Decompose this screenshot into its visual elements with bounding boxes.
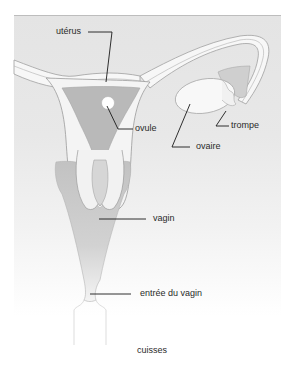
- label-uterus: utérus: [56, 27, 81, 36]
- thigh-outline-right: [96, 300, 106, 345]
- leader-line-trompe: [216, 111, 229, 126]
- label-trompe: trompe: [231, 121, 259, 130]
- reproductive-system-illustration: [0, 0, 293, 368]
- label-entree-du-vagin: entrée du vagin: [140, 289, 202, 298]
- label-vagin: vagin: [153, 214, 175, 223]
- label-ovule: ovule: [135, 124, 157, 133]
- label-ovaire: ovaire: [196, 142, 221, 151]
- label-cuisses: cuisses: [137, 346, 167, 355]
- leader-line-ovaire: [172, 104, 190, 147]
- thigh-outline-left: [74, 300, 84, 345]
